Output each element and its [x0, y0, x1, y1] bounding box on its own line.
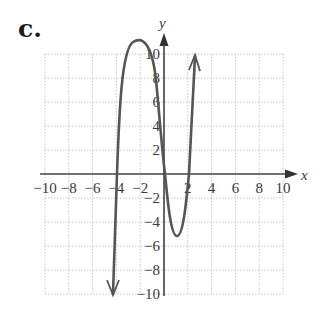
x-tick-label: −8: [61, 180, 77, 196]
x-tick-label: −10: [33, 180, 56, 196]
x-tick-label: 6: [232, 180, 240, 196]
panel-label: c.: [18, 14, 42, 43]
y-tick-label: −8: [144, 262, 160, 278]
x-tick-label: 8: [255, 180, 263, 196]
chart-container: c. x y −10−8−6−4−2246810 −10−8−6−4−22468…: [0, 0, 324, 321]
x-axis-label: x: [300, 167, 308, 183]
axes: x y: [40, 15, 308, 296]
y-axis-arrow-icon: [160, 33, 169, 46]
x-tick-labels: −10−8−6−4−2246810: [33, 180, 290, 196]
y-tick-label: 2: [153, 142, 161, 158]
y-tick-label: −6: [144, 238, 160, 254]
y-tick-label: −10: [137, 286, 160, 302]
cubic-graph: x y −10−8−6−4−2246810 −10−8−6−4−2246810: [0, 0, 324, 321]
x-tick-label: 10: [276, 180, 291, 196]
x-tick-label: 4: [208, 180, 216, 196]
x-axis-arrow-icon: [285, 170, 298, 179]
y-tick-label: −2: [144, 190, 160, 206]
x-tick-label: −6: [85, 180, 101, 196]
y-axis-label: y: [157, 15, 166, 31]
y-tick-label: −4: [144, 214, 160, 230]
